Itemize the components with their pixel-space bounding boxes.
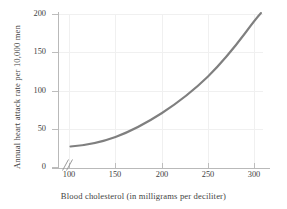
x-tick-300 (254, 163, 255, 168)
axis-break-icon (60, 158, 76, 172)
x-axis-line (52, 168, 270, 169)
x-tick-150 (115, 163, 116, 168)
y-tick-100 (52, 91, 58, 92)
x-tick-label-150: 150 (95, 170, 135, 179)
y-tick-0 (52, 167, 58, 168)
heart-attack-rate-curve (58, 14, 270, 169)
y-tick-label-50: 50 (2, 124, 46, 133)
y-tick-label-200: 200 (2, 9, 46, 18)
data-curve-container (58, 14, 270, 169)
y-tick-label-0: 0 (2, 162, 46, 171)
y-axis-line (58, 12, 59, 169)
x-tick-label-300: 300 (234, 170, 274, 179)
y-tick-label-150: 150 (2, 47, 46, 56)
chart-figure: Annual heart attack rate per 10,000 men … (0, 0, 287, 209)
x-tick-label-250: 250 (188, 170, 228, 179)
x-axis-title: Blood cholesterol (in milligrams per dec… (0, 191, 287, 201)
x-tick-label-200: 200 (142, 170, 182, 179)
y-tick-200 (52, 14, 58, 15)
y-tick-50 (52, 129, 58, 130)
y-tick-150 (52, 52, 58, 53)
x-tick-250 (208, 163, 209, 168)
y-axis-title: Annual heart attack rate per 10,000 men (12, 12, 22, 182)
y-tick-label-100: 100 (2, 86, 46, 95)
x-tick-200 (162, 163, 163, 168)
